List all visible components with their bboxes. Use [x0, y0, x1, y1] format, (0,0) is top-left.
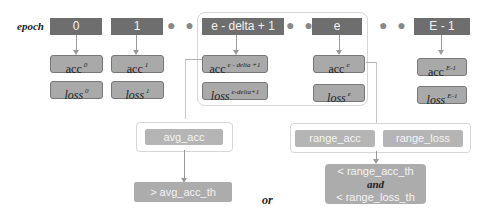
loss-box-e-delta-plus-1: losse-delta+1: [202, 82, 268, 100]
range-acc-threshold: < range_acc_th: [325, 165, 426, 178]
epoch-box-0: 0: [50, 18, 102, 35]
acc-box-e: acce: [313, 55, 365, 73]
acc-box-0: acc0: [50, 55, 103, 73]
range-loss-box: range_loss: [383, 130, 463, 147]
range-loss-threshold: < range_loss_th: [325, 191, 426, 204]
range-threshold-box: < range_acc_th and < range_loss_th: [325, 164, 426, 204]
epoch-label: epoch: [17, 20, 44, 32]
acc-box-1: acc1: [111, 55, 164, 73]
acc-box-e-delta-plus-1: acce - delta +1: [202, 55, 268, 73]
range-acc-box: range_acc: [295, 130, 375, 147]
and-label: and: [325, 178, 426, 191]
loss-box-1: loss1: [111, 81, 164, 99]
acc-box-E-minus-1: accE-1: [417, 58, 467, 76]
or-label: or: [262, 193, 273, 208]
loss-box-e: losse: [313, 84, 365, 102]
epoch-box-E-minus-1: E - 1: [414, 18, 470, 35]
loss-box-E-minus-1: lossE-1: [417, 86, 467, 104]
arrow-icon: [438, 50, 444, 55]
epoch-box-1: 1: [111, 18, 163, 35]
avg-acc-threshold-box: > avg_acc_th: [134, 182, 232, 202]
avg-acc-box: avg_acc: [145, 129, 223, 145]
epoch-box-e-delta-plus-1: e - delta + 1: [202, 18, 284, 35]
loss-box-0: loss0: [50, 81, 103, 99]
epoch-box-e: e: [312, 18, 362, 35]
